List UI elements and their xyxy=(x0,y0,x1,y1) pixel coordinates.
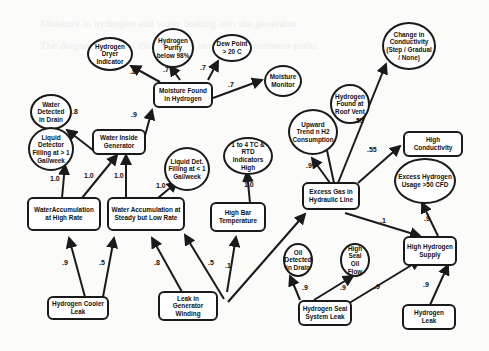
node-h2-purity[interactable]: Hydrogen Purity below 98% xyxy=(152,28,194,68)
edge-label: .9 xyxy=(131,111,137,118)
edge-label: .8 xyxy=(154,259,160,266)
node-dew-point[interactable]: Dew Point > 20 C xyxy=(212,34,252,62)
edge-label: .5 xyxy=(208,259,214,266)
edge-label: .9 xyxy=(62,259,68,266)
edge-label: .7 xyxy=(228,81,234,88)
edge-label: .8 xyxy=(130,68,136,75)
edge-label: .7 xyxy=(200,64,206,71)
node-h2-leak[interactable]: Hydrogen Leak xyxy=(402,304,456,330)
node-water-drain[interactable]: Water Detected in Drain xyxy=(30,94,72,130)
node-leak-winding[interactable]: Leak in Generator Winding xyxy=(158,291,218,321)
edge-label: .1 xyxy=(225,262,231,269)
edge-label: .9 xyxy=(302,284,308,291)
node-oil-drain[interactable]: Oil Detected in Drain xyxy=(283,243,313,277)
edge-label: 1.0 xyxy=(50,175,60,182)
node-h2-dryer[interactable]: Hydrogen Dryer Indicator xyxy=(87,37,133,71)
node-excess-h2-usage[interactable]: Excess Hydrogen Usage >50 CFD xyxy=(394,158,456,204)
edge-label: 1.0 xyxy=(84,172,94,179)
node-high-seal-oil[interactable]: High Seal Oil Flow xyxy=(340,243,370,277)
node-moisture-found[interactable]: Moisture Found in Hydrogen xyxy=(153,82,213,108)
node-high-h2-supply[interactable]: High Hydrogen Supply xyxy=(403,236,457,266)
edge-label: .9 xyxy=(306,162,312,169)
node-liquid-lt1[interactable]: Liquid Det. Filling at < 1 Gal/week xyxy=(164,147,210,191)
node-water-low-rate[interactable]: Water Accumulation at Steady but Low Rat… xyxy=(107,197,185,231)
node-moisture-monitor[interactable]: Moisture Monitor xyxy=(264,65,302,97)
edge-label: .9 xyxy=(423,281,429,288)
node-h2-roof-vent[interactable]: Hydrogen Found at Roof Vent xyxy=(330,84,370,124)
edge-label: .9 xyxy=(424,215,430,222)
edge-label: .8 xyxy=(72,108,78,115)
edge-label: .9 xyxy=(374,283,380,290)
node-h2-cooler-leak[interactable]: Hydrogen Cooler Leak xyxy=(47,296,109,320)
node-h2-seal-leak[interactable]: Hydrogen Seal System Leak xyxy=(298,300,352,326)
node-liquid-gt1[interactable]: Liquid Detector Filling at > 1 Gal/week xyxy=(28,127,74,171)
node-excess-gas[interactable]: Excess Gas in Hydraulic Line xyxy=(302,182,360,210)
node-upward-trend[interactable]: Upward Trend n H2 Consumption xyxy=(288,109,338,155)
edge-label: .55 xyxy=(367,146,377,153)
node-water-inside[interactable]: Water Inside Generator xyxy=(92,129,146,155)
node-tc-rtd[interactable]: 1 to 4 TC & RTD Indicators High xyxy=(223,137,273,175)
edge-label: .1 xyxy=(380,217,386,224)
edge-label: .7 xyxy=(163,66,169,73)
edge-label: .9 xyxy=(340,284,346,291)
node-change-conductivity[interactable]: Change in Conductivity (Step / Gradual /… xyxy=(382,22,436,70)
edge-label: .5 xyxy=(99,259,105,266)
edge-label: 1.0 xyxy=(244,181,254,188)
node-water-high-rate[interactable]: WaterAccumulation at High Rate xyxy=(27,197,101,231)
edge-label: .55 xyxy=(354,117,364,124)
node-high-bar-temp[interactable]: High Bar Temperature xyxy=(210,202,266,232)
edge-label: 1.0 xyxy=(156,182,166,189)
node-high-conductivity[interactable]: High Conductivity xyxy=(403,131,463,157)
edge-label: 1.0 xyxy=(114,172,124,179)
